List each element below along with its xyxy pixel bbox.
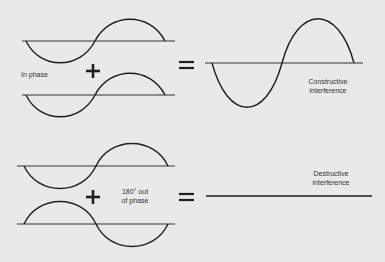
- interference-diagram: [0, 0, 385, 262]
- constructive-label-line1: Constructive: [298, 77, 358, 86]
- in-phase-label: In phase: [21, 70, 48, 79]
- out-of-phase-line2: of phase: [112, 196, 158, 205]
- out-of-phase-line1: 180° out: [112, 187, 158, 196]
- constructive-interference-label: Constructive interference: [298, 77, 358, 95]
- constructive-label-line2: interference: [298, 86, 358, 95]
- destructive-label-line2: interference: [301, 178, 361, 187]
- destructive-interference-label: Destructive interference: [301, 169, 361, 187]
- out-of-phase-label: 180° out of phase: [112, 187, 158, 205]
- destructive-label-line1: Destructive: [301, 169, 361, 178]
